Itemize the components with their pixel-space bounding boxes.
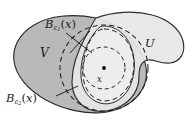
label-set-U: U bbox=[145, 38, 155, 50]
label-ball-epsilon-1: Bε1(x) bbox=[45, 19, 76, 32]
label-set-V: V bbox=[40, 47, 49, 59]
label-ball-epsilon-2: Bε2(x) bbox=[6, 93, 37, 106]
center-point-x bbox=[102, 66, 106, 70]
label-ball-epsilon-2-arg: (x) bbox=[22, 91, 38, 105]
label-point-x: x bbox=[97, 75, 102, 84]
label-ball-epsilon-1-arg: (x) bbox=[61, 17, 77, 31]
label-ball-epsilon-1-sub: ε1 bbox=[53, 23, 60, 32]
topology-diagram: Bε1(x) Bε2(x) V U x bbox=[0, 0, 194, 121]
label-ball-epsilon-2-sub: ε2 bbox=[14, 97, 21, 106]
